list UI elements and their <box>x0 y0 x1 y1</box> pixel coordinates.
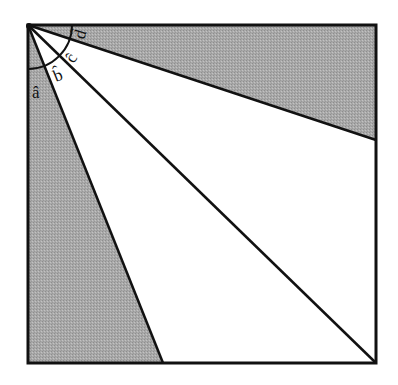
label-a: â <box>32 83 40 102</box>
angle-diagram: â b̂ ĉ d̂ <box>0 0 398 385</box>
vertex <box>26 23 32 29</box>
